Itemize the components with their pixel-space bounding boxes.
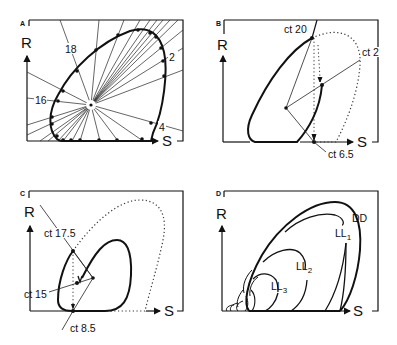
- curve-label-ll1: LL1: [335, 227, 352, 242]
- center-point: [89, 103, 92, 106]
- panel-label: C: [20, 190, 25, 197]
- annotation-ct15: ct 15: [24, 288, 47, 300]
- r-axis-label: R: [217, 36, 228, 53]
- original-cycle-dotted: [73, 200, 164, 311]
- four-panel-diagram: A R S: [0, 0, 397, 345]
- s-axis-label: S: [357, 133, 367, 150]
- perturbed-trajectory: [248, 38, 322, 142]
- cycle-family: [226, 202, 360, 311]
- panel-label: A: [20, 20, 25, 27]
- annotation-ct2: ct 2: [362, 46, 379, 58]
- annotation-ct8-5: ct 8.5: [70, 322, 96, 334]
- panel-b: B R S ct 20 ct 2 ct 6.5: [216, 20, 380, 160]
- r-axis-label: R: [21, 34, 32, 51]
- annotation-ct20: ct 20: [284, 23, 307, 35]
- panel-label: D: [216, 190, 221, 197]
- panel-d: D R S DD: [216, 190, 378, 319]
- ray-label-18: 18: [65, 43, 77, 55]
- s-axis-label: S: [162, 132, 172, 149]
- center-point: [284, 106, 288, 110]
- s-axis-label: S: [353, 302, 363, 319]
- s-axis-label: S: [164, 302, 174, 319]
- panel-a: A R S: [20, 20, 183, 149]
- curve-label-dd: DD: [352, 212, 368, 224]
- center-point: [91, 276, 95, 280]
- ray-label-2: 2: [169, 51, 175, 63]
- annotation-ct6-5: ct 6.5: [328, 148, 354, 160]
- ray-label-4: 4: [159, 121, 165, 133]
- r-axis-label: R: [24, 203, 35, 220]
- panel-c: C R S ct 17.5 ct 15 ct 8.5: [20, 190, 183, 334]
- annotation-ct17-5: ct 17.5: [44, 227, 76, 239]
- panel-label: B: [216, 20, 221, 27]
- r-axis-label: R: [216, 205, 227, 222]
- original-cycle-dotted: [312, 32, 360, 142]
- curve-label-ll2: LL2: [296, 260, 313, 275]
- curve-label-ll3: LL3: [271, 280, 288, 295]
- perturbed-trajectory: [58, 240, 131, 311]
- ray-label-16: 16: [35, 94, 47, 106]
